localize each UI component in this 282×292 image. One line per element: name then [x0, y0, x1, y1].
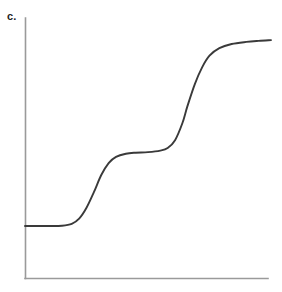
data-curve-double-sigmoid [25, 40, 271, 226]
figure-panel: c. [0, 0, 282, 292]
plot-area [0, 0, 282, 292]
